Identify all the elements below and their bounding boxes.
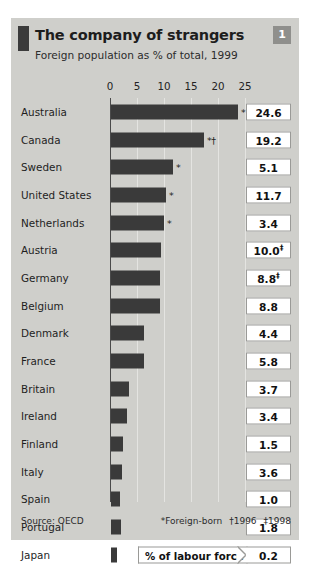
country-label: Netherlands <box>21 217 84 229</box>
bar-footnote-marker: * <box>176 162 180 173</box>
table-row: Spain1.0 <box>11 486 299 514</box>
bar <box>111 160 173 175</box>
footnote-star: *Foreign-born <box>161 516 223 526</box>
bar-footnote-marker: * <box>241 106 245 117</box>
legend-label: % of labour force <box>138 546 248 563</box>
country-label: United States <box>21 189 91 201</box>
country-label: Italy <box>21 466 44 478</box>
bar <box>111 409 127 424</box>
value-number: 5.1 <box>259 162 278 174</box>
value-box: 8.8 <box>246 297 291 314</box>
table-row: Sweden*5.1 <box>11 153 299 181</box>
value-box: 5.1 <box>246 159 291 176</box>
bar <box>111 354 144 369</box>
bar <box>111 270 160 285</box>
country-label: Britain <box>21 383 55 395</box>
chart-footer: Source: OECD *Foreign-born†1996‡1998 <box>11 516 299 540</box>
table-row: Australia*24.6 <box>11 98 299 126</box>
source-note: Source: OECD <box>21 516 84 526</box>
table-row: Japan0.2% of labour force <box>11 541 299 568</box>
title-accent-bar <box>18 26 29 51</box>
value-number: 1.5 <box>259 439 278 451</box>
x-axis-tick-labels: 0510152025 <box>11 80 299 98</box>
value-box: 3.7 <box>246 380 291 397</box>
table-row: France5.8 <box>11 347 299 375</box>
bar <box>111 132 204 147</box>
country-label: Denmark <box>21 327 69 339</box>
bar <box>111 298 160 313</box>
chart-title: The company of strangers <box>35 27 244 43</box>
footnotes: *Foreign-born†1996‡1998 <box>161 516 291 526</box>
value-number: 0.2 <box>259 549 278 561</box>
bar <box>111 437 123 452</box>
bar-footnote-marker: * <box>167 217 171 228</box>
country-label: Spain <box>21 493 50 505</box>
chart-panel: The company of strangers Foreign populat… <box>11 18 299 540</box>
table-row: Ireland3.4 <box>11 403 299 431</box>
country-label: Ireland <box>21 410 57 422</box>
country-label: Belgium <box>21 300 64 312</box>
country-label: Canada <box>21 134 61 146</box>
value-box: 19.2 <box>246 131 291 148</box>
chart-header: The company of strangers Foreign populat… <box>11 18 299 80</box>
bar-rows: Australia*24.6Canada*†19.2Sweden*5.1Unit… <box>11 98 299 568</box>
country-label: Japan <box>21 549 50 561</box>
bar <box>111 215 164 230</box>
value-number: 3.6 <box>259 466 278 478</box>
bar <box>111 547 117 562</box>
value-footnote-marker: ‡ <box>280 243 284 252</box>
value-number: 3.4 <box>259 411 278 423</box>
table-row: Austria10.0‡ <box>11 236 299 264</box>
country-label: Sweden <box>21 161 62 173</box>
legend-pointer-icon <box>237 547 245 563</box>
chart-plot-area: 0510152025 Australia*24.6Canada*†19.2Swe… <box>11 80 299 512</box>
value-number: 8.8 <box>259 300 278 312</box>
value-box: 5.8 <box>246 353 291 370</box>
value-box: 3.6 <box>246 463 291 480</box>
x-tick-label-15: 15 <box>184 80 197 92</box>
value-box: 1.0 <box>246 491 291 508</box>
table-row: Britain3.7 <box>11 375 299 403</box>
x-tick-label-20: 20 <box>211 80 224 92</box>
x-tick-label-0: 0 <box>107 80 114 92</box>
country-label: Austria <box>21 244 58 256</box>
value-box: 8.8‡ <box>246 269 291 286</box>
value-box: 3.4 <box>246 214 291 231</box>
value-number: 1.0 <box>259 494 278 506</box>
bar <box>111 492 120 507</box>
value-box: 4.4 <box>246 325 291 342</box>
table-row: Belgium8.8 <box>11 292 299 320</box>
value-number: 24.6 <box>255 106 281 118</box>
value-number: 11.7 <box>255 189 281 201</box>
footnote-dagger: †1996 <box>229 516 256 526</box>
bar <box>111 243 161 258</box>
table-row: Germany8.8‡ <box>11 264 299 292</box>
figure-number-badge: 1 <box>273 26 291 44</box>
table-row: Denmark4.4 <box>11 320 299 348</box>
bar <box>111 464 122 479</box>
value-box: 0.2 <box>246 546 291 563</box>
x-tick-label-10: 10 <box>157 80 170 92</box>
bar <box>111 104 238 119</box>
bar-footnote-marker: * <box>169 189 173 200</box>
x-tick-label-5: 5 <box>134 80 141 92</box>
value-box: 3.4 <box>246 408 291 425</box>
table-row: Canada*†19.2 <box>11 126 299 154</box>
value-number: 3.7 <box>259 383 278 395</box>
value-box: 11.7 <box>246 186 291 203</box>
chart-subtitle: Foreign population as % of total, 1999 <box>35 49 238 61</box>
country-label: Finland <box>21 438 58 450</box>
table-row: Netherlands*3.4 <box>11 209 299 237</box>
value-box: 10.0‡ <box>246 242 291 259</box>
x-tick-label-25: 25 <box>238 80 251 92</box>
value-number: 5.8 <box>259 356 278 368</box>
table-row: Finland1.5 <box>11 430 299 458</box>
value-number: 4.4 <box>259 328 278 340</box>
table-row: United States*11.7 <box>11 181 299 209</box>
table-row: Italy3.6 <box>11 458 299 486</box>
bar <box>111 326 144 341</box>
value-box: 24.6 <box>246 103 291 120</box>
footnote-ddagger: ‡1998 <box>264 516 291 526</box>
country-label: France <box>21 355 56 367</box>
bar <box>111 381 129 396</box>
